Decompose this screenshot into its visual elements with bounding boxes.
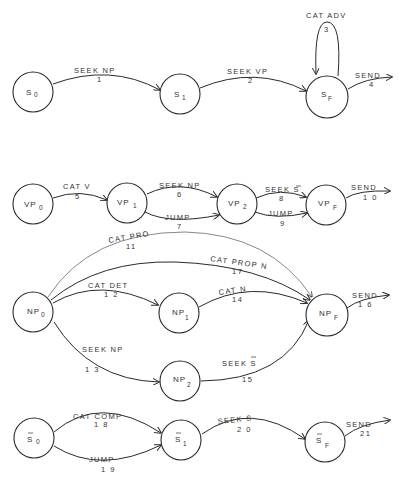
node-np1-label: NP — [172, 308, 185, 317]
node-sf-sub: F — [328, 95, 332, 102]
node-vpf-label: VP — [318, 199, 331, 208]
node-s0-label: S — [26, 88, 32, 97]
arc-1-seek-np[interactable] — [53, 75, 160, 90]
node-np2-label: NP — [173, 375, 186, 384]
s-network: S 0 S 1 S F SEEK NP 1 SEEK VP 2 CAT ADV … — [13, 11, 392, 118]
node-npf-sub: F — [334, 314, 338, 321]
node-vp2-label: VP — [228, 199, 241, 208]
arc-13-label: SEEK NP — [82, 345, 124, 354]
arc-13-num: 1 3 — [85, 365, 100, 374]
arc-4-label: SEND — [355, 71, 381, 80]
arc-11-num: 11 — [126, 242, 137, 251]
arc-16-label: SEND — [352, 291, 378, 300]
arc-3-label: CAT ADV — [306, 11, 347, 20]
node-vp1-label: VP — [117, 198, 130, 207]
node-sbar1-sub: 1 — [183, 440, 187, 447]
arc-20-num: 2 0 — [237, 425, 252, 434]
arc-15-label: SEEK S — [222, 359, 257, 368]
node-np2-sub: 2 — [187, 381, 191, 388]
node-npf-label: NP — [319, 309, 332, 318]
node-s0-sub: 0 — [34, 91, 38, 98]
node-vp0-label: VP — [24, 200, 37, 209]
node-sbar0-sub: 0 — [36, 438, 40, 445]
arc-14-cat-n[interactable] — [199, 291, 307, 307]
arc-7-num: 7 — [177, 222, 183, 231]
s-bar-network: S 0 S 1 S F CAT COMP 1 8 JUMP 1 9 SEEK S… — [14, 412, 390, 474]
arc-6-num: 6 — [177, 190, 183, 199]
arc-2-num: 2 — [248, 76, 254, 85]
node-sbar1-label: S — [175, 435, 181, 444]
arc-9-num: 9 — [280, 219, 286, 228]
arc-10-label: SEND — [351, 183, 377, 192]
node-np0-sub: 0 — [41, 311, 45, 318]
node-sf-label: S — [321, 90, 327, 99]
node-sbar0[interactable] — [14, 418, 54, 458]
arc-15-num: 15 — [242, 375, 253, 384]
node-sbarf-sub: F — [325, 442, 329, 449]
arc-19-label: JUMP — [89, 455, 115, 464]
node-s1-sub: 1 — [182, 94, 186, 101]
arc-12-num: 1 2 — [104, 290, 119, 299]
arc-10-num: 1 0 — [363, 193, 378, 202]
arc-2-label: SEEK VP — [227, 67, 268, 76]
atn-diagram: S 0 S 1 S F SEEK NP 1 SEEK VP 2 CAT ADV … — [0, 0, 406, 486]
arc-6-label: SEEK NP — [159, 181, 201, 190]
arc-19-num: 1 9 — [101, 465, 116, 474]
arc-16-num: 1 6 — [358, 300, 373, 309]
node-s0[interactable] — [13, 72, 53, 112]
arc-7-label: JUMP — [165, 213, 191, 222]
arc-4-num: 4 — [369, 80, 375, 89]
arc-8-label: SEEK S — [265, 185, 300, 194]
node-vp2-sub: 2 — [243, 203, 247, 210]
arc-21-num: 21 — [360, 429, 371, 438]
node-sbar0-label: S — [27, 435, 33, 444]
arc-14-num: 14 — [232, 295, 243, 304]
arc-5-label: CAT V — [63, 182, 91, 191]
arc-9-label: JUMP — [268, 209, 294, 218]
node-np1-sub: 1 — [185, 314, 189, 321]
arc-18-num: 1 8 — [94, 420, 109, 429]
arc-8-num: 8 — [279, 194, 285, 203]
np-network: NP 0 NP 1 NP 2 NP F CAT PRO 11 CAT PROP … — [13, 229, 389, 401]
arc-21-label: SEND — [346, 420, 372, 429]
arc-5-num: 5 — [75, 192, 81, 201]
node-vp1-sub: 1 — [133, 202, 137, 209]
node-sbarf-label: S — [316, 436, 322, 445]
arc-15-seek-s-bar[interactable] — [201, 320, 309, 381]
arc-1-label: SEEK NP — [74, 66, 116, 75]
node-vp0-sub: 0 — [39, 204, 43, 211]
node-s1-label: S — [174, 90, 180, 99]
arc-12-label: CAT DET — [88, 281, 129, 290]
arc-1-num: 1 — [97, 75, 103, 84]
node-np0-label: NP — [27, 307, 40, 316]
arc-17-num: 17 — [232, 267, 243, 276]
arc-3-num: 3 — [324, 25, 330, 34]
vp-network: VP 0 VP 1 VP 2 VP F CAT V 5 SEEK NP 6 JU… — [13, 181, 390, 231]
node-vpf-sub: F — [333, 204, 337, 211]
